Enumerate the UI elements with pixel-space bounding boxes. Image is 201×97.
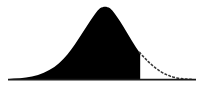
distribution-figure [0,0,201,97]
normal-curve-plot [0,0,201,97]
